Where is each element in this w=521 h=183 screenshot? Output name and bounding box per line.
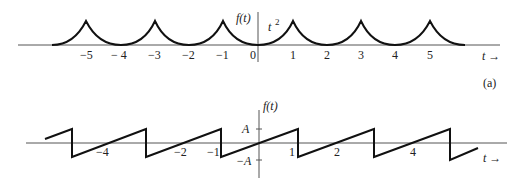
tick-a: 2 [324,48,330,62]
tick-a: −2 [182,48,195,62]
figure-a: f(t) t 2 0 −5 − 4 −3 −2 −1 1 2 3 4 5 t →… [18,11,500,90]
tick-a: −1 [216,48,229,62]
tick-a: 4 [392,48,398,62]
figure-canvas: f(t) t 2 0 −5 − 4 −3 −2 −1 1 2 3 4 5 t →… [0,0,521,183]
tick-a: −5 [80,48,93,62]
tick-a: 3 [358,48,364,62]
tick-b: 4 [410,145,416,159]
xlabel-a: t → [482,49,500,63]
tick-b: −2 [174,145,187,159]
origin-label: 0 [250,48,256,62]
curve-label: t [268,20,272,34]
tick-b: −4 [96,145,109,159]
tick-b: −1 [207,145,220,159]
amp-pos-label: A [241,122,250,136]
curve-label-sup: 2 [275,17,280,27]
tick-a: −3 [148,48,161,62]
panel-label-a: (a) [483,76,496,90]
tick-b: 1 [289,145,295,159]
ylabel-b: f(t) [263,99,278,113]
tick-b: 2 [334,145,340,159]
tick-a: 1 [290,48,296,62]
amp-neg-label: −A [236,154,252,168]
ylabel-a: f(t) [236,11,251,25]
tick-a: − 4 [111,48,127,62]
figure-b: f(t) A −A −4 −2 −1 1 2 4 t → [26,99,507,178]
tick-a: 5 [427,48,433,62]
xlabel-b: t → [483,151,501,165]
